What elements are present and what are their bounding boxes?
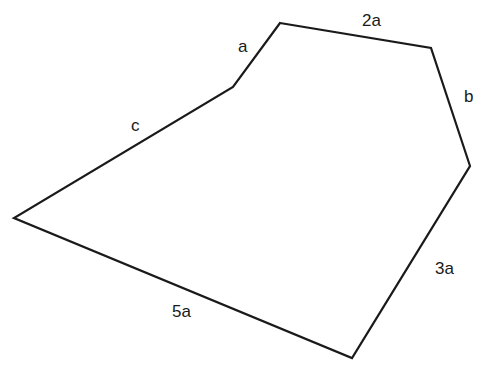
side-label-b: b — [464, 88, 473, 105]
side-label-5a: 5a — [172, 303, 191, 320]
side-label-3a: 3a — [435, 260, 454, 277]
hexagon-outline — [14, 23, 470, 358]
side-label-a: a — [238, 38, 247, 55]
side-label-c: c — [131, 117, 140, 134]
side-label-2a: 2a — [362, 12, 381, 29]
hexagon-diagram — [0, 0, 485, 377]
